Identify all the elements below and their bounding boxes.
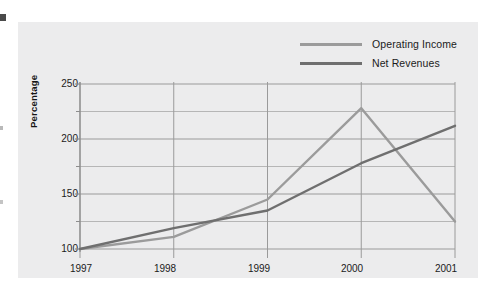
chart-canvas — [0, 0, 494, 301]
y-axis-ticks — [75, 84, 80, 249]
chart-screenshot: Operating Income Net Revenues Percentage… — [0, 0, 494, 301]
plot-area: Percentage 250 200 150 100 1997 1998 199… — [0, 0, 494, 301]
gridlines-vertical — [80, 82, 455, 258]
